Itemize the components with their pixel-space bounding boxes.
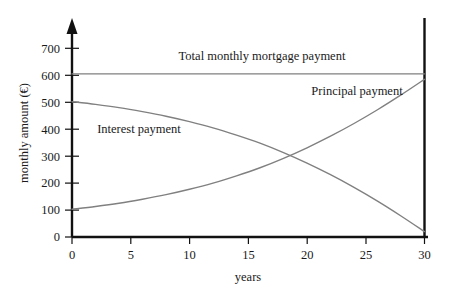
x-tick-label-5: 5 <box>128 248 134 262</box>
x-tick-label-0: 0 <box>69 248 75 262</box>
y-tick-label-700: 700 <box>41 42 60 56</box>
total-payment-label: Total monthly mortgage payment <box>179 49 346 63</box>
series-annotations: Total monthly mortgage payment Principal… <box>97 49 403 136</box>
x-tick-label-20: 20 <box>301 248 314 262</box>
chart-canvas: 700 600 500 400 300 200 100 0 0 5 10 15 … <box>0 0 473 294</box>
interest-payment-label: Interest payment <box>97 122 181 136</box>
principal-payment-label: Principal payment <box>311 84 403 98</box>
y-tick-label-300: 300 <box>41 150 60 164</box>
series-line-principal <box>72 79 425 209</box>
x-tick-label-10: 10 <box>183 248 196 262</box>
y-tick-label-100: 100 <box>41 203 60 217</box>
x-axis-tick-labels: 0 5 10 15 20 25 30 <box>69 248 431 262</box>
y-axis-title: monthly amount (€) <box>17 83 31 183</box>
y-tick-label-0: 0 <box>54 230 60 244</box>
mortgage-payment-chart: 700 600 500 400 300 200 100 0 0 5 10 15 … <box>0 0 473 294</box>
y-tick-label-600: 600 <box>41 69 60 83</box>
y-tick-label-200: 200 <box>41 176 60 190</box>
y-axis-arrowhead <box>67 18 78 34</box>
y-tick-label-500: 500 <box>41 96 60 110</box>
x-axis-title: years <box>235 270 262 284</box>
x-tick-label-25: 25 <box>360 248 373 262</box>
y-axis-tick-labels: 700 600 500 400 300 200 100 0 <box>41 42 60 245</box>
y-tick-label-400: 400 <box>41 123 60 137</box>
x-tick-label-15: 15 <box>242 248 255 262</box>
x-tick-label-30: 30 <box>418 248 431 262</box>
